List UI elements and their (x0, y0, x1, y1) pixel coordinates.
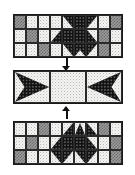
quilt-cell (62, 136, 74, 150)
quilt-cell (14, 29, 26, 43)
quilt-cell (14, 71, 50, 103)
quilt-cell (110, 122, 122, 136)
quilt-cell (62, 150, 74, 164)
triangle-dark (51, 137, 61, 149)
quilt-cell (38, 29, 50, 43)
quilt-cell (74, 136, 86, 150)
triangle-dark (51, 30, 61, 42)
quilt-cell (86, 71, 122, 103)
quilt-cell (62, 15, 74, 29)
quilt-cell (50, 71, 86, 103)
triangle-light (75, 151, 85, 163)
triangle-dark (63, 16, 73, 28)
quilt-cell (110, 136, 122, 150)
triangle-dark (63, 123, 73, 135)
arrow-shaft (66, 110, 68, 119)
quilt-cell (14, 136, 26, 150)
quilt-cell (50, 29, 62, 43)
arrow-up-bottom-to-middle (62, 105, 71, 119)
arrow-right-dark-icon (15, 72, 49, 102)
quilt-cell (74, 15, 86, 29)
figure-root (0, 0, 135, 175)
quilt-cell (86, 136, 98, 150)
middle-quilt-panel (13, 70, 123, 104)
arrow-left-dark-icon (87, 72, 121, 102)
quilt-cell (38, 150, 50, 164)
quilt-cell (74, 122, 86, 136)
triangle-dark (51, 151, 61, 163)
quilt-cell (86, 122, 98, 136)
quilt-cell (98, 136, 110, 150)
arrow-head-up-icon (62, 106, 70, 111)
triangle-dark (87, 151, 97, 163)
quilt-cell (110, 15, 122, 29)
triangle-light (63, 151, 73, 163)
triangle-dark (75, 123, 85, 135)
quilt-cell (62, 122, 74, 136)
quilt-cell (50, 122, 62, 136)
quilt-cell (26, 15, 38, 29)
quilt-cell (86, 29, 98, 43)
quilt-cell (14, 43, 26, 57)
bottom-panel-grid (14, 122, 122, 164)
quilt-cell (86, 15, 98, 29)
quilt-cell (26, 122, 38, 136)
quilt-cell (50, 43, 62, 57)
quilt-cell (26, 150, 38, 164)
quilt-cell (110, 150, 122, 164)
triangle-dark (87, 30, 97, 42)
quilt-cell (74, 150, 86, 164)
quilt-cell (74, 29, 86, 43)
quilt-cell (26, 29, 38, 43)
quilt-cell (26, 136, 38, 150)
quilt-cell (98, 15, 110, 29)
quilt-cell (62, 43, 74, 57)
quilt-cell (110, 29, 122, 43)
quilt-cell (14, 150, 26, 164)
quilt-cell (86, 150, 98, 164)
quilt-cell (14, 122, 26, 136)
quilt-cell (50, 136, 62, 150)
triangle-dark (87, 137, 97, 149)
middle-panel-grid (14, 71, 122, 103)
quilt-cell (86, 43, 98, 57)
triangle-dark (87, 16, 97, 28)
triangle-dark (63, 44, 73, 56)
quilt-cell (38, 122, 50, 136)
quilt-cell (38, 43, 50, 57)
bottom-quilt-panel (13, 121, 123, 165)
quilt-cell (50, 150, 62, 164)
quilt-cell (62, 29, 74, 43)
triangle-dark (87, 123, 97, 135)
quilt-cell (38, 15, 50, 29)
top-quilt-panel (13, 14, 123, 58)
quilt-cell (38, 136, 50, 150)
quilt-cell (98, 150, 110, 164)
quilt-cell (110, 43, 122, 57)
quilt-cell (98, 122, 110, 136)
quilt-cell (98, 43, 110, 57)
triangle-dark (87, 44, 97, 56)
top-panel-grid (14, 15, 122, 57)
quilt-cell (50, 15, 62, 29)
quilt-cell (98, 29, 110, 43)
quilt-cell (74, 43, 86, 57)
quilt-cell (26, 43, 38, 57)
quilt-cell (14, 15, 26, 29)
